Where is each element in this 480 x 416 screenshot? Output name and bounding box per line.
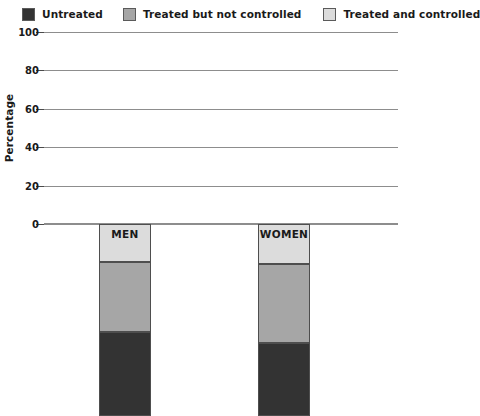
legend-item-treated-not-controlled[interactable]: Treated but not controlled bbox=[123, 0, 302, 28]
gridline-20 bbox=[44, 186, 398, 187]
legend-item-untreated[interactable]: Untreated bbox=[22, 0, 103, 28]
legend-item-treated-controlled[interactable]: Treated and controlled bbox=[323, 0, 480, 28]
legend-label-untreated: Untreated bbox=[42, 9, 103, 20]
legend-swatch-treated-controlled bbox=[323, 8, 336, 21]
gridline-60 bbox=[44, 109, 398, 110]
legend-swatch-treated-not-controlled bbox=[123, 8, 136, 21]
bar-segment-men-1[interactable] bbox=[99, 262, 151, 331]
x-axis-label-men: MEN bbox=[69, 228, 181, 240]
chart-legend: Untreated Treated but not controlled Tre… bbox=[0, 0, 403, 28]
gridline-40 bbox=[44, 147, 398, 148]
gridline-0 bbox=[44, 223, 398, 225]
y-tick-label-80: 80 bbox=[0, 66, 39, 76]
legend-label-treated-controlled: Treated and controlled bbox=[343, 9, 480, 20]
y-tick-label-40: 40 bbox=[0, 143, 39, 153]
bar-segment-men-0[interactable] bbox=[99, 332, 151, 416]
y-tick-label-0: 0 bbox=[0, 220, 39, 230]
y-tick-label-60: 60 bbox=[0, 105, 39, 115]
y-tick-label-100: 100 bbox=[0, 28, 39, 38]
legend-swatch-untreated bbox=[22, 8, 35, 21]
x-axis-label-women: WOMEN bbox=[228, 228, 340, 240]
gridline-80 bbox=[44, 70, 398, 71]
y-tick-label-20: 20 bbox=[0, 182, 39, 192]
legend-label-treated-not-controlled: Treated but not controlled bbox=[143, 9, 302, 20]
bar-segment-women-0[interactable] bbox=[258, 343, 310, 416]
gridline-100 bbox=[44, 32, 398, 33]
y-axis-title: Percentage bbox=[2, 32, 16, 224]
bar-segment-women-1[interactable] bbox=[258, 264, 310, 343]
plot-area: 020406080100 bbox=[44, 32, 398, 224]
